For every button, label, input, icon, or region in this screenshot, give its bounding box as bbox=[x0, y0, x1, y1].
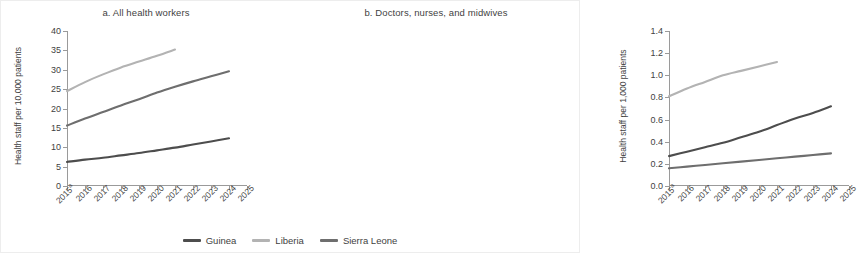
legend-item-guinea[interactable]: Guinea bbox=[183, 235, 237, 246]
panel-a-y-tick-label: 25 bbox=[51, 84, 61, 94]
panel-a-y-tick-label: 30 bbox=[51, 65, 61, 75]
panel-a-line-liberia bbox=[67, 50, 175, 91]
panel-b-y-tick-label: 1.2 bbox=[650, 48, 663, 58]
panel-a-line-guinea bbox=[67, 138, 229, 162]
panel-b-y-tick-label: 0.2 bbox=[650, 159, 663, 169]
panel-b-title: b. Doctors, nurses, and midwives bbox=[291, 7, 581, 18]
panel-b-line-sierra-leone bbox=[669, 153, 831, 168]
panel-a-y-tick-label: 10 bbox=[51, 142, 61, 152]
panel-b-y-tick-label: 1.4 bbox=[650, 26, 663, 36]
panel-b-y-tick-label: 0.6 bbox=[650, 115, 663, 125]
panel-b-y-tick-label: 0.4 bbox=[650, 137, 663, 147]
legend-line-icon bbox=[320, 239, 338, 242]
panel-a-y-tick-label: 5 bbox=[56, 162, 61, 172]
chart-panel-b: b. Doctors, nurses, and midwives Health … bbox=[291, 1, 581, 226]
legend-line-icon bbox=[252, 239, 270, 242]
panel-a-y-tick-label: 35 bbox=[51, 45, 61, 55]
panel-a-y-tick-label: 20 bbox=[51, 104, 61, 114]
panel-a-y-tick-label: 15 bbox=[51, 123, 61, 133]
panel-a-series-layer bbox=[67, 31, 247, 186]
panel-a-plot-area: 05101520253035402015a2016201720182019202… bbox=[67, 31, 247, 186]
panel-b-y-tick-label: 1.0 bbox=[650, 70, 663, 80]
legend-label: Liberia bbox=[275, 235, 304, 246]
panel-b-line-liberia bbox=[669, 62, 777, 96]
panel-a-y-axis-title: Health staff per 10,000 patients bbox=[11, 26, 25, 186]
legend-item-liberia[interactable]: Liberia bbox=[252, 235, 304, 246]
panel-b-y-tick-label: 0.0 bbox=[650, 181, 663, 191]
panel-b-series-layer bbox=[669, 31, 849, 186]
panel-a-title: a. All health workers bbox=[1, 7, 291, 18]
panel-b-line-guinea bbox=[669, 106, 831, 156]
legend-label: Sierra Leone bbox=[343, 235, 397, 246]
chart-legend: GuineaLiberiaSierra Leone bbox=[1, 235, 579, 246]
panel-b-y-axis-title: Health staff per 1,000 patients bbox=[616, 26, 630, 186]
legend-item-sierra-leone[interactable]: Sierra Leone bbox=[320, 235, 397, 246]
panel-b-plot-area: 0.00.20.40.60.81.01.21.42015a20162017201… bbox=[669, 31, 849, 186]
legend-label: Guinea bbox=[206, 235, 237, 246]
legend-line-icon bbox=[183, 239, 201, 242]
figure: a. All health workers Health staff per 1… bbox=[1, 1, 579, 252]
panel-a-y-tick-label: 40 bbox=[51, 26, 61, 36]
panel-b-y-tick-label: 0.8 bbox=[650, 92, 663, 102]
chart-panel-a: a. All health workers Health staff per 1… bbox=[1, 1, 291, 226]
